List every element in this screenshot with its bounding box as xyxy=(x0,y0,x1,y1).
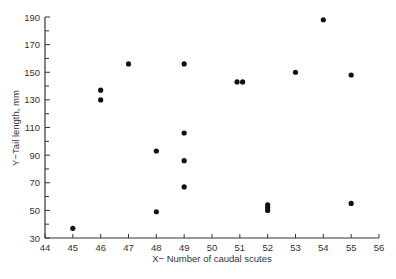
data-point xyxy=(240,79,245,84)
x-tick-label: 53 xyxy=(290,242,301,253)
data-point xyxy=(265,208,270,213)
x-tick-label: 49 xyxy=(179,242,190,253)
x-tick-label: 48 xyxy=(151,242,162,253)
axes xyxy=(45,17,379,238)
data-point xyxy=(182,130,187,135)
axis-ticks: 4445464748495051525354555630507090110130… xyxy=(24,12,384,254)
x-axis-label: X− Number of caudal scutes xyxy=(152,253,272,264)
x-tick-label: 45 xyxy=(68,242,79,253)
data-points xyxy=(70,17,354,231)
y-tick-label: 70 xyxy=(29,177,40,188)
data-point xyxy=(182,61,187,66)
x-tick-label: 51 xyxy=(235,242,246,253)
y-tick-label: 150 xyxy=(24,67,40,78)
x-tick-label: 47 xyxy=(123,242,134,253)
scatter-chart: 4445464748495051525354555630507090110130… xyxy=(0,0,396,279)
data-point xyxy=(70,226,75,231)
y-tick-label: 110 xyxy=(25,122,40,133)
data-point xyxy=(349,201,354,206)
x-tick-label: 46 xyxy=(95,242,106,253)
y-tick-label: 30 xyxy=(29,233,40,244)
x-tick-label: 50 xyxy=(207,242,218,253)
y-tick-label: 190 xyxy=(24,12,40,23)
data-point xyxy=(321,17,326,22)
data-point xyxy=(126,61,131,66)
y-tick-label: 130 xyxy=(24,94,40,105)
x-tick-label: 55 xyxy=(346,242,357,253)
x-tick-label: 44 xyxy=(40,242,51,253)
y-tick-label: 170 xyxy=(24,39,40,50)
x-tick-label: 54 xyxy=(318,242,329,253)
y-tick-label: 90 xyxy=(29,150,40,161)
data-point xyxy=(98,97,103,102)
x-tick-label: 56 xyxy=(374,242,385,253)
data-point xyxy=(98,88,103,93)
data-point xyxy=(349,72,354,77)
data-point xyxy=(154,209,159,214)
y-axis-label: Y−Tail length, mm xyxy=(10,90,21,166)
x-tick-label: 52 xyxy=(262,242,273,253)
data-point xyxy=(234,79,239,84)
data-point xyxy=(154,148,159,153)
data-point xyxy=(182,158,187,163)
data-point xyxy=(293,70,298,75)
data-point xyxy=(182,184,187,189)
y-tick-label: 50 xyxy=(29,205,40,216)
